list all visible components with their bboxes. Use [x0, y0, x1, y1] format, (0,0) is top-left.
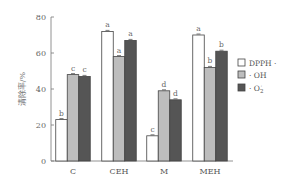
x-tick-label: MEH	[199, 167, 220, 176]
significance-label: d	[173, 89, 178, 98]
x-tick-label: CEH	[110, 167, 129, 176]
legend-swatch	[238, 84, 245, 91]
bar-ceh-0	[102, 31, 114, 161]
bar-c-1	[67, 75, 79, 161]
bar-ceh-2	[125, 40, 137, 161]
significance-label: a	[196, 24, 201, 33]
bars: bccaaacddabb	[56, 20, 228, 161]
significance-label: b	[208, 56, 213, 65]
significance-label: d	[162, 80, 167, 89]
bar-ceh-1	[113, 57, 125, 161]
y-tick-label: 80	[36, 13, 46, 22]
y-tick-label: 0	[41, 157, 46, 166]
significance-label: a	[105, 20, 110, 29]
significance-label: a	[117, 46, 122, 55]
bar-c-2	[79, 76, 91, 161]
x-tick-label: C	[70, 167, 76, 176]
bar-m-0	[147, 136, 159, 161]
y-axis-label: 清除率/%	[17, 71, 27, 106]
significance-label: b	[219, 40, 224, 49]
legend-label: · O2·	[249, 83, 263, 94]
legend-label: · OH	[249, 71, 267, 80]
bar-m-1	[158, 91, 170, 161]
significance-label: a	[128, 29, 133, 38]
bar-chart: 020406080清除率/%CCEHMMEH bccaaacddabb DPPH…	[0, 0, 294, 185]
y-tick-label: 20	[36, 121, 46, 130]
y-tick-label: 60	[36, 49, 46, 58]
bar-c-0	[56, 120, 68, 161]
y-tick-label: 40	[36, 85, 46, 94]
significance-label: c	[150, 125, 154, 134]
x-tick-label: M	[160, 167, 168, 176]
legend-swatch	[238, 71, 245, 78]
bar-meh-1	[204, 67, 216, 161]
legend: DPPH ·· OH· O2·	[238, 59, 276, 94]
significance-label: c	[82, 65, 86, 74]
bar-m-2	[170, 100, 182, 161]
bar-meh-0	[193, 35, 205, 161]
legend-label: DPPH ·	[249, 59, 276, 68]
legend-swatch	[238, 59, 245, 66]
bar-meh-2	[216, 51, 228, 161]
significance-label: b	[59, 109, 64, 118]
significance-label: c	[71, 64, 75, 73]
